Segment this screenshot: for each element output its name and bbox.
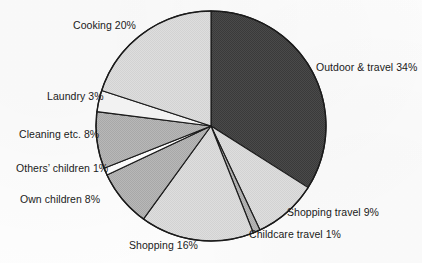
pie-chart-figure: Outdoor & travel 34% Shopping travel 9% … bbox=[0, 0, 422, 263]
pie-label-shopping: Shopping 16% bbox=[129, 239, 198, 251]
pie-label-outdoor-travel: Outdoor & travel 34% bbox=[316, 61, 417, 73]
pie-chart-plot-area: Outdoor & travel 34% Shopping travel 9% … bbox=[0, 0, 422, 263]
pie-label-others-children: Others’ children 1% bbox=[16, 162, 108, 174]
pie-label-own-children: Own children 8% bbox=[20, 193, 100, 205]
pie-label-laundry: Laundry 3% bbox=[47, 90, 104, 102]
pie-label-shopping-travel: Shopping travel 9% bbox=[287, 206, 379, 218]
pie-label-cleaning: Cleaning etc. 8% bbox=[19, 128, 99, 140]
pie-label-cooking: Cooking 20% bbox=[73, 19, 136, 31]
pie-label-childcare-travel: Childcare travel 1% bbox=[249, 228, 341, 240]
